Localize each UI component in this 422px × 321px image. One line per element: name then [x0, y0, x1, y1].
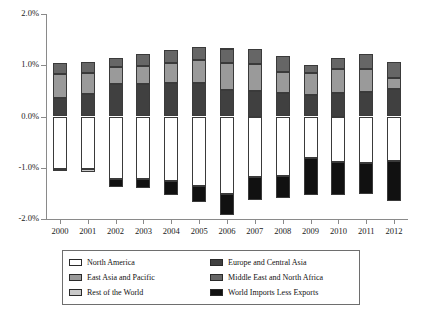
- swatch-rest-of-world-icon: [69, 289, 82, 296]
- bar-segment: [387, 62, 401, 78]
- y-tick-mark: [41, 14, 46, 15]
- bar-segment: [136, 117, 150, 179]
- bar-segment: [359, 163, 373, 194]
- bar-segment: [304, 65, 318, 73]
- bar-segment: [276, 72, 290, 93]
- x-tick-mark: [60, 220, 61, 224]
- bar-segment: [220, 49, 234, 62]
- bar-segment: [304, 158, 318, 196]
- bar-segment: [164, 117, 178, 182]
- y-tick-label: 0.0%: [21, 111, 39, 121]
- bar-segment: [387, 78, 401, 90]
- legend-item-world-imports-less-exports: World Imports Less Exports: [210, 288, 353, 297]
- bar-segment: [53, 98, 67, 116]
- x-tick-mark: [199, 220, 200, 224]
- bar-segment: [53, 74, 67, 98]
- legend-label: Middle East and North Africa: [228, 273, 323, 282]
- bar-segment: [276, 56, 290, 73]
- y-tick-mark: [41, 117, 46, 118]
- swatch-middle-east-north-africa-icon: [210, 274, 223, 281]
- x-tick-label: 2000: [46, 226, 74, 236]
- bar-segment: [192, 60, 206, 83]
- x-tick-label: 2007: [241, 226, 269, 236]
- x-tick-mark: [116, 220, 117, 224]
- legend-row: North America Europe and Central Asia: [69, 255, 353, 270]
- swatch-north-america-icon: [69, 259, 82, 266]
- bar-segment: [192, 117, 206, 187]
- bar-segment: [387, 161, 401, 201]
- bar-segment: [109, 179, 123, 187]
- x-tick-mark: [283, 220, 284, 224]
- y-axis-labels: 2.0%1.0%0.0%-1.0%-2.0%: [0, 0, 39, 321]
- bar-segment: [248, 177, 262, 200]
- bar-segment: [220, 63, 234, 90]
- swatch-world-imports-less-exports-icon: [210, 289, 223, 296]
- legend-row: East Asia and Pacific Middle East and No…: [69, 270, 353, 285]
- bar-segment: [220, 90, 234, 117]
- legend-item-east-asia-and-pacific: East Asia and Pacific: [69, 273, 210, 282]
- bar-segment: [53, 169, 67, 171]
- x-tick-label: 2005: [185, 226, 213, 236]
- bar-segment: [331, 117, 345, 162]
- bar-segment: [276, 176, 290, 198]
- bar-segment: [192, 83, 206, 117]
- bar-segment: [136, 84, 150, 116]
- y-tick-mark: [41, 65, 46, 66]
- x-tick-mark: [88, 220, 89, 224]
- x-tick-mark: [311, 220, 312, 224]
- x-tick-mark: [143, 220, 144, 224]
- bar-segment: [81, 62, 95, 74]
- bar-segment: [248, 117, 262, 177]
- bar-segment: [359, 92, 373, 117]
- bar-segment: [192, 47, 206, 60]
- bar-segment: [109, 84, 123, 116]
- bar-segment: [359, 117, 373, 163]
- bar-segment: [331, 58, 345, 69]
- stacked-bar-chart: 2.0%1.0%0.0%-1.0%-2.0% North America Eur…: [0, 0, 422, 321]
- x-tick-label: 2001: [74, 226, 102, 236]
- bar-segment: [248, 49, 262, 64]
- bar-segment: [331, 162, 345, 195]
- bar-segment: [136, 66, 150, 84]
- bar-segment: [276, 93, 290, 117]
- bar-segment: [81, 94, 95, 116]
- bar-segment: [359, 54, 373, 69]
- bar-segment: [331, 93, 345, 116]
- bar-segment: [304, 73, 318, 95]
- bar-segment: [220, 194, 234, 215]
- x-tick-label: 2010: [324, 226, 352, 236]
- bar-segment: [164, 63, 178, 83]
- x-tick-mark: [394, 220, 395, 224]
- y-tick-mark: [41, 168, 46, 169]
- x-tick-label: 2011: [352, 226, 380, 236]
- legend-label: Europe and Central Asia: [228, 258, 306, 267]
- bar-segment: [248, 64, 262, 91]
- legend-label: East Asia and Pacific: [87, 273, 155, 282]
- bar-segment: [359, 69, 373, 92]
- x-tick-mark: [366, 220, 367, 224]
- x-tick-label: 2006: [213, 226, 241, 236]
- bar-segment: [304, 117, 318, 158]
- bar-segment: [109, 67, 123, 84]
- x-tick-label: 2012: [380, 226, 408, 236]
- y-tick-label: 1.0%: [21, 59, 39, 69]
- bar-segment: [81, 169, 95, 172]
- bar-segment: [164, 50, 178, 63]
- bar-segment: [192, 186, 206, 201]
- swatch-europe-central-asia-icon: [210, 259, 223, 266]
- bar-segment: [331, 69, 345, 94]
- x-tick-label: 2009: [297, 226, 325, 236]
- x-tick-label: 2004: [157, 226, 185, 236]
- legend-label: North America: [87, 258, 135, 267]
- x-tick-label: 2008: [269, 226, 297, 236]
- chart-legend: North America Europe and Central Asia Ea…: [62, 250, 360, 305]
- x-tick-mark: [227, 220, 228, 224]
- bar-segment: [53, 117, 67, 170]
- x-tick-mark: [255, 220, 256, 224]
- legend-label: World Imports Less Exports: [228, 288, 318, 297]
- bar-segment: [136, 179, 150, 188]
- bar-segment: [136, 54, 150, 65]
- bar-segment: [276, 117, 290, 177]
- bar-segment: [81, 73, 95, 94]
- y-tick-label: -1.0%: [18, 162, 39, 172]
